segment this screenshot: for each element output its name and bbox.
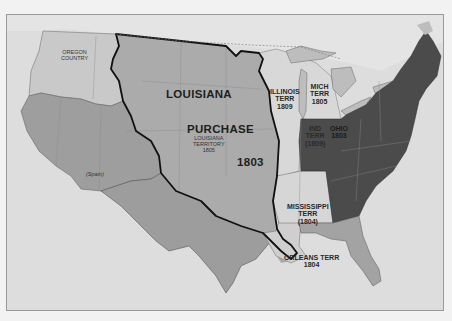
- label-louisiana: LOUISIANA: [166, 88, 232, 100]
- label-illinois-line2: TERR: [270, 95, 300, 102]
- label-ohio-line1: OHIO: [330, 125, 348, 132]
- label-mississippi-line1: MISSISSIPPI: [287, 203, 329, 210]
- label-illinois-line1: ILLINOIS: [270, 88, 300, 95]
- label-lt-line3: 1805: [193, 148, 225, 154]
- label-orleans-line1: ORLEANS TERR: [284, 254, 339, 261]
- label-year-1803: 1803: [237, 156, 264, 168]
- label-mississippi-terr: MISSISSIPPI TERR (1804): [287, 203, 329, 225]
- label-purchase: PURCHASE: [187, 123, 254, 135]
- label-louisiana-territory: LOUISIANA TERRITORY 1805: [193, 136, 225, 153]
- label-michigan-line2: TERR: [310, 90, 329, 97]
- label-orleans-line2: 1804: [284, 261, 339, 268]
- label-orleans-terr: ORLEANS TERR 1804: [284, 254, 339, 269]
- label-indiana-line2: TERR: [305, 132, 325, 139]
- label-ohio-line2: 1803: [330, 132, 348, 139]
- label-indiana-terr: IND TERR (1809): [305, 125, 325, 147]
- label-ohio: OHIO 1803: [330, 125, 348, 140]
- label-michigan-line3: 1805: [310, 98, 329, 105]
- label-spain: (Spain): [86, 172, 104, 178]
- label-indiana-line3: (1809): [305, 140, 325, 147]
- label-mississippi-line3: (1804): [287, 218, 329, 225]
- label-mississippi-line2: TERR: [287, 210, 329, 217]
- label-illinois-line3: 1809: [270, 103, 300, 110]
- label-oregon-country: OREGON COUNTRY: [61, 50, 88, 62]
- label-michigan-line1: MICH: [310, 83, 329, 90]
- label-illinois-terr: ILLINOIS TERR 1809: [270, 88, 300, 110]
- label-oregon-line2: COUNTRY: [61, 56, 88, 62]
- label-indiana-line1: IND: [305, 125, 325, 132]
- label-michigan-terr: MICH TERR 1805: [310, 83, 329, 105]
- lake-michigan: [299, 69, 307, 119]
